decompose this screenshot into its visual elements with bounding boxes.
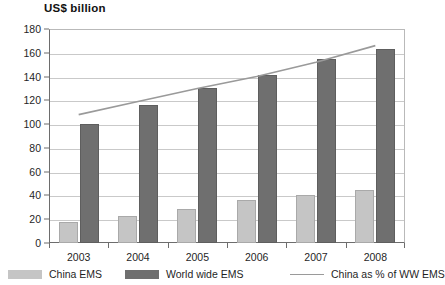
- x-tick-label: 2006: [245, 251, 268, 263]
- y-tick-label: 60: [29, 166, 41, 178]
- bars-layer: [49, 29, 405, 243]
- y-axis: 020406080100120140160180: [0, 29, 49, 243]
- x-tick-label: 2008: [364, 251, 387, 263]
- bar-world-wide-ems[interactable]: [317, 59, 336, 243]
- y-tick-label: 0: [35, 237, 41, 249]
- x-tick-label: 2003: [67, 251, 90, 263]
- bar-group: [49, 29, 108, 243]
- x-tick-label: 2007: [304, 251, 327, 263]
- bar-china-ems[interactable]: [355, 190, 374, 244]
- bar-world-wide-ems[interactable]: [139, 105, 158, 243]
- chart-legend: China EMSWorld wide EMSChina as % of WW …: [0, 265, 441, 283]
- y-tick-label: 160: [23, 47, 41, 59]
- bar-world-wide-ems[interactable]: [376, 49, 395, 243]
- bar-china-ems[interactable]: [296, 195, 315, 243]
- x-tick-mark: [286, 243, 287, 248]
- bar-china-ems[interactable]: [237, 200, 256, 243]
- bar-group: [108, 29, 167, 243]
- x-tick-mark: [49, 243, 50, 248]
- legend-label: China EMS: [49, 268, 102, 280]
- x-tick-mark: [404, 243, 405, 248]
- legend-swatch-icon: [125, 270, 159, 279]
- y-tick-label: 180: [23, 23, 41, 35]
- x-tick-mark: [227, 243, 228, 248]
- y-tick-label: 100: [23, 118, 41, 130]
- legend-item[interactable]: China as % of WW EMS: [290, 265, 445, 283]
- legend-label: China as % of WW EMS: [331, 268, 445, 280]
- x-tick-mark: [108, 243, 109, 248]
- chart-title: US$ billion: [44, 2, 106, 14]
- bar-china-ems[interactable]: [59, 222, 78, 243]
- x-tick-mark: [346, 243, 347, 248]
- y-tick-label: 140: [23, 71, 41, 83]
- bar-group: [168, 29, 227, 243]
- y-tick-label: 20: [29, 213, 41, 225]
- x-tick-label: 2004: [126, 251, 149, 263]
- x-tick-label: 2005: [186, 251, 209, 263]
- bar-china-ems[interactable]: [177, 209, 196, 243]
- bar-group: [346, 29, 405, 243]
- bar-group: [286, 29, 345, 243]
- y-tick-label: 80: [29, 142, 41, 154]
- x-axis: 200320042005200620072008: [49, 243, 405, 267]
- bar-group: [227, 29, 286, 243]
- x-tick-mark: [168, 243, 169, 248]
- legend-line-marker-icon: [290, 274, 324, 275]
- legend-item[interactable]: World wide EMS: [125, 265, 243, 283]
- bar-world-wide-ems[interactable]: [80, 124, 99, 243]
- bar-china-ems[interactable]: [118, 216, 137, 243]
- bar-world-wide-ems[interactable]: [198, 88, 217, 243]
- y-tick-label: 120: [23, 94, 41, 106]
- bar-world-wide-ems[interactable]: [258, 75, 277, 243]
- y-tick-label: 40: [29, 189, 41, 201]
- legend-label: World wide EMS: [166, 268, 243, 280]
- legend-swatch-icon: [8, 270, 42, 279]
- legend-item[interactable]: China EMS: [8, 265, 102, 283]
